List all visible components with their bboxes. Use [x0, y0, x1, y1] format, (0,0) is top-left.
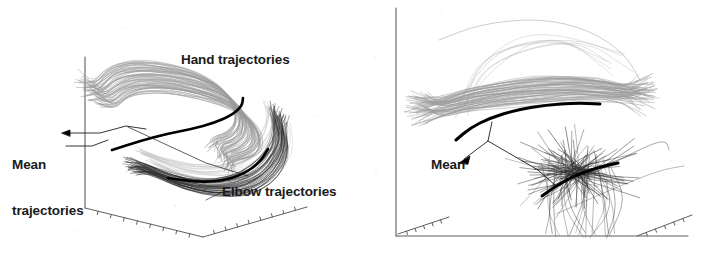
mean-trajectories-label-line1: Mean	[12, 157, 84, 172]
leader-line	[464, 122, 492, 159]
axis-tick	[415, 228, 416, 231]
axis-tick	[424, 226, 425, 229]
axis-tick	[294, 207, 295, 210]
elbow-trajectories-label: Elbow trajectories	[222, 184, 337, 199]
axis-tick	[248, 220, 249, 223]
axis-tick	[407, 231, 408, 234]
trajectory-line	[439, 20, 640, 80]
trajectory-artwork	[0, 0, 708, 254]
axis-tick	[150, 224, 151, 227]
right-panel-axes	[396, 8, 692, 236]
left-floor-axis	[85, 208, 203, 237]
axis-tick	[176, 231, 177, 234]
left-panel-artwork	[62, 57, 307, 237]
axis-tick	[225, 227, 226, 230]
axis-tick	[441, 220, 442, 223]
hand-trajectories-label: Hand trajectories	[181, 52, 290, 67]
mean-label: Mean	[431, 157, 465, 172]
mean-trajectory-line	[456, 103, 600, 140]
axis-tick	[674, 222, 675, 225]
axis-tick	[123, 218, 124, 221]
right-elbow-trajectory-bundle	[505, 125, 684, 238]
axis-tick	[432, 223, 433, 226]
axis-tick	[665, 226, 666, 229]
axis-tick	[655, 229, 656, 232]
right-floor-axis	[203, 207, 307, 237]
axis-tick	[189, 234, 190, 237]
right-hand-trajectory-bundle	[404, 20, 659, 126]
axis-tick	[137, 221, 138, 224]
axis-tick	[646, 233, 647, 236]
right-panel-artwork	[396, 8, 692, 238]
mean-trajectories-label: Mean trajectories	[12, 127, 84, 248]
axis-tick	[237, 224, 238, 227]
trajectory-figure: Hand trajectories Mean trajectories Elbo…	[0, 0, 708, 254]
axis-tick	[283, 210, 284, 213]
right-mean-leader-lines	[459, 122, 556, 186]
mean-trajectories-label-line2: trajectories	[12, 203, 84, 218]
axis-tick	[110, 214, 111, 217]
axis-tick	[260, 217, 261, 220]
axis-tick	[271, 214, 272, 217]
axis-tick	[163, 227, 164, 230]
axis-tick	[214, 230, 215, 233]
axis-tick	[97, 211, 98, 214]
right-hand-mean-trajectory	[456, 103, 600, 140]
axis-tick	[683, 219, 684, 222]
